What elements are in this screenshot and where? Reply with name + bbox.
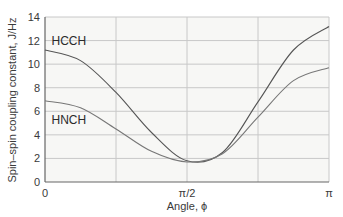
y-axis-label: Spin–spin coupling constant, J/Hz — [6, 17, 18, 182]
grid — [45, 17, 329, 182]
y-tick-label: 12 — [28, 35, 40, 47]
x-tick-label: π/2 — [179, 187, 196, 199]
y-tick-label: 10 — [28, 58, 40, 70]
y-tick-label: 6 — [34, 105, 40, 117]
x-axis-label: Angle, ϕ — [167, 200, 207, 212]
y-tick-labels: 02468101214 — [28, 11, 40, 188]
x-tick-label: π — [325, 187, 333, 199]
y-tick-label: 14 — [28, 11, 40, 23]
series-label-hnch: HNCH — [52, 113, 87, 127]
series-label-hcch: HCCH — [52, 34, 87, 48]
y-tick-label: 8 — [34, 82, 40, 94]
y-tick-label: 2 — [34, 152, 40, 164]
x-tick-labels: 0π/2π — [42, 187, 333, 199]
x-tick-label: 0 — [42, 187, 48, 199]
y-tick-label: 4 — [34, 129, 40, 141]
coupling-constant-chart: 02468101214 0π/2π HCCHHNCH Spin–spin cou… — [0, 0, 343, 217]
y-tick-label: 0 — [34, 176, 40, 188]
